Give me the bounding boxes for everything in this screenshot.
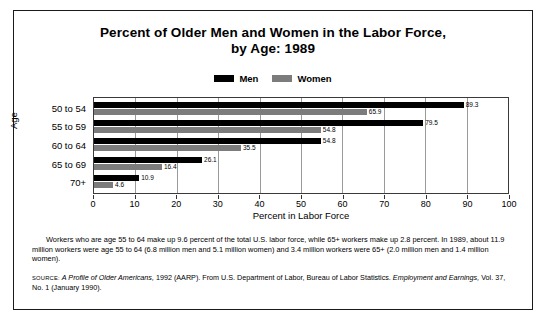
y-axis-categories: 50 to 5455 to 5960 to 6465 to 6970+: [14, 97, 90, 194]
x-tick-label: 80: [421, 199, 431, 209]
bar-row: 89.365.9: [94, 102, 508, 117]
bar-value-label: 54.8: [323, 138, 336, 144]
chart-title-line1: Percent of Older Men and Women in the La…: [100, 25, 446, 40]
source-label: SOURCE:: [32, 275, 60, 281]
legend-item-men: Men: [214, 73, 258, 84]
bar-row: 79.554.8: [94, 120, 508, 135]
source-title-2: Employment and Earnings,: [393, 273, 479, 282]
legend-label-men: Men: [239, 73, 258, 84]
bar-men: [94, 175, 139, 181]
bar-men: [94, 157, 202, 163]
x-tick-label: 0: [90, 199, 95, 209]
bar-row: 54.835.5: [94, 138, 508, 153]
bar-row: 26.116.4: [94, 156, 508, 171]
bar-men: [94, 138, 321, 144]
chart-source: SOURCE: A Profile of Older Americans, 19…: [32, 273, 516, 293]
bar-women: [94, 182, 113, 188]
x-tick-label: 70: [379, 199, 389, 209]
bar-value-label: 16.4: [164, 164, 177, 170]
chart-title-line2: by Age: 1989: [14, 41, 532, 57]
bar-value-label: 4.6: [115, 182, 124, 188]
x-tick-label: 50: [296, 199, 306, 209]
x-tick-label: 90: [462, 199, 472, 209]
bar-value-label: 89.3: [466, 102, 479, 108]
bar-value-label: 65.9: [369, 109, 382, 115]
bar-row: 10.94.6: [94, 174, 508, 189]
bar-men: [94, 102, 464, 108]
x-tick-label: 10: [130, 199, 140, 209]
bar-value-label: 35.5: [243, 145, 256, 151]
chart-title: Percent of Older Men and Women in the La…: [14, 25, 532, 57]
bar-value-label: 54.8: [323, 127, 336, 133]
bar-value-label: 79.5: [425, 120, 438, 126]
legend-swatch-men: [214, 75, 234, 82]
legend-swatch-women: [272, 75, 292, 82]
x-tick-label: 100: [501, 199, 516, 209]
source-title-1: A Profile of Older Americans,: [62, 273, 154, 282]
legend-label-women: Women: [297, 73, 331, 84]
x-tick-label: 60: [338, 199, 348, 209]
bar-value-label: 10.9: [141, 175, 154, 181]
y-axis-category: 70+: [14, 175, 90, 190]
plot-frame: 89.365.979.554.854.835.526.116.410.94.6: [93, 97, 509, 194]
bar-women: [94, 145, 241, 151]
y-axis-category: 65 to 69: [14, 157, 90, 172]
x-axis-title: Percent in Labor Force: [93, 210, 509, 221]
chart-figure: Percent of Older Men and Women in the La…: [13, 10, 533, 310]
plot-area: 89.365.979.554.854.835.526.116.410.94.6: [93, 97, 509, 194]
y-axis-category: 50 to 54: [14, 101, 90, 116]
bar-women: [94, 127, 321, 133]
chart-note: Workers who are age 55 to 64 make up 9.6…: [32, 235, 516, 264]
bar-women: [94, 109, 367, 115]
source-text-1: 1992 (AARP). From U.S. Department of Lab…: [154, 273, 393, 282]
chart-legend: Men Women: [14, 73, 532, 84]
x-tick-label: 30: [213, 199, 223, 209]
x-tick-label: 40: [254, 199, 264, 209]
bar-women: [94, 164, 162, 170]
x-axis-ticks: 0102030405060708090100: [93, 195, 509, 207]
x-tick-label: 20: [171, 199, 181, 209]
note-line1: Workers who are age 55 to 64 make up 9.6…: [46, 235, 439, 244]
y-axis-category: 60 to 64: [14, 138, 90, 153]
legend-item-women: Women: [272, 73, 331, 84]
y-axis-category: 55 to 59: [14, 119, 90, 134]
bar-value-label: 26.1: [204, 157, 217, 163]
bar-rows: 89.365.979.554.854.835.526.116.410.94.6: [94, 98, 508, 193]
bar-men: [94, 120, 423, 126]
